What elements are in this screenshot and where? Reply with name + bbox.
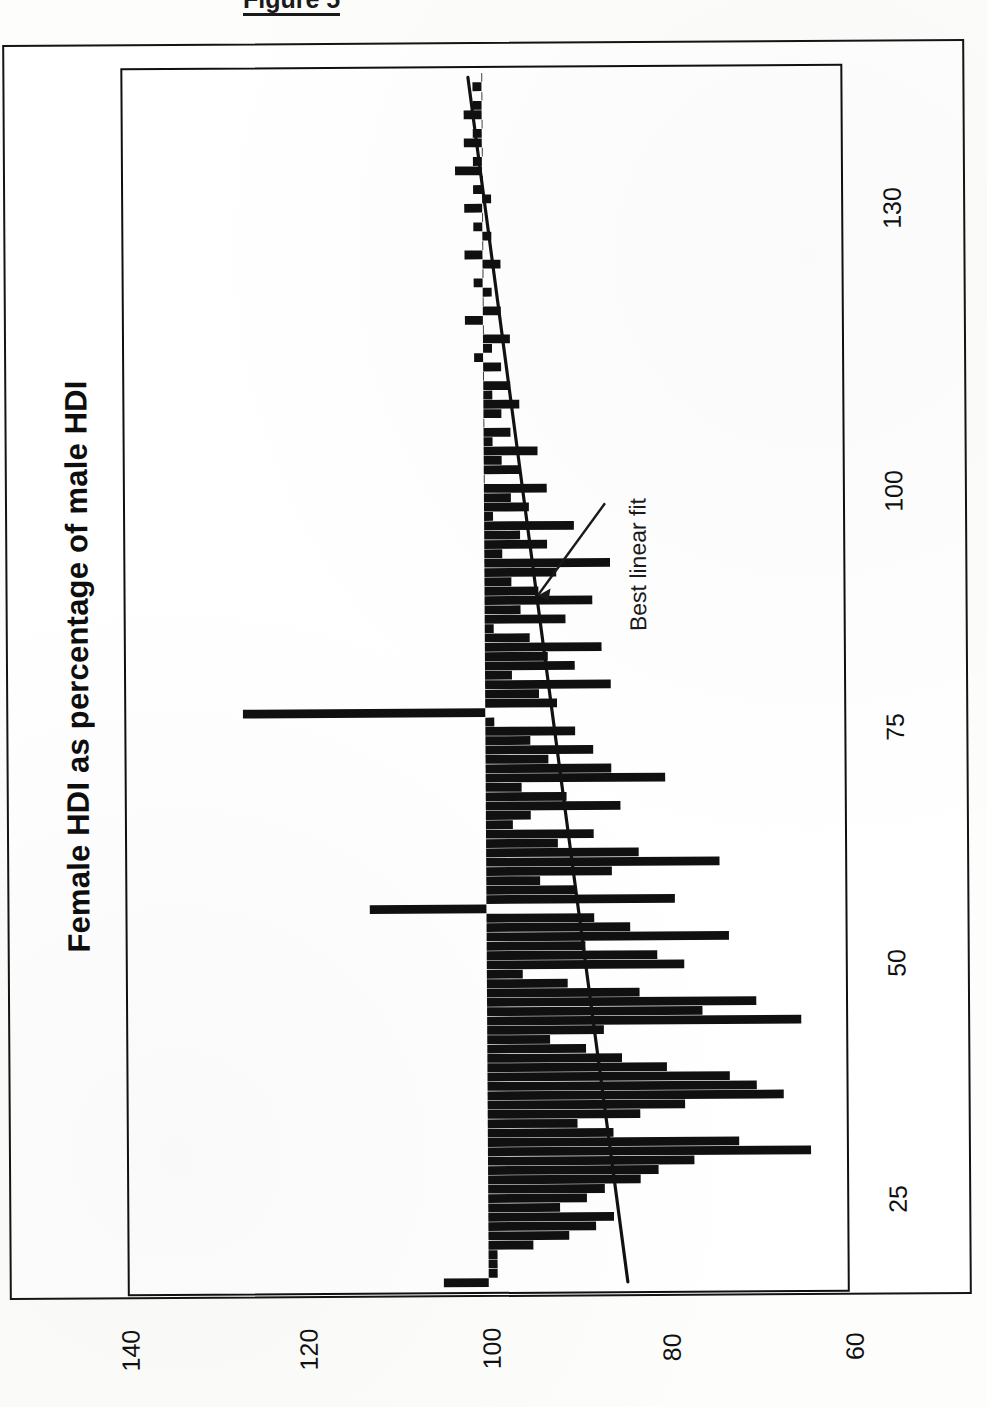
bar (488, 1145, 811, 1156)
bar (484, 456, 502, 465)
bar (485, 718, 494, 727)
bar (484, 446, 538, 455)
x-tick-label-130: 130 (877, 173, 906, 243)
bar (483, 288, 492, 297)
bar (489, 1269, 498, 1278)
best-fit-annotation-label: Best linear fit (624, 449, 652, 679)
bar (486, 773, 666, 783)
bar (484, 428, 511, 437)
bar (482, 120, 483, 129)
bar (487, 988, 640, 998)
bar (487, 1062, 667, 1072)
plot-svg (122, 66, 847, 1294)
bar (489, 1250, 498, 1259)
bar (483, 400, 519, 409)
plot-area (120, 64, 849, 1296)
bar (243, 708, 485, 718)
bar (485, 726, 575, 735)
bar (465, 316, 483, 325)
bar (486, 820, 513, 829)
bar (488, 1231, 569, 1240)
bar (473, 185, 482, 194)
bar (487, 1025, 604, 1034)
bar (486, 764, 612, 774)
bar (488, 1090, 784, 1101)
bar (487, 941, 586, 950)
bar (483, 344, 492, 353)
bar (485, 745, 593, 754)
bar (488, 1119, 578, 1128)
y-tick-label-140: 140 (116, 1316, 145, 1386)
y-tick-label-100: 100 (477, 1313, 506, 1383)
bar (486, 866, 612, 876)
bar (487, 1071, 729, 1081)
bar (488, 1109, 641, 1119)
bar (483, 391, 492, 400)
bar (488, 1100, 686, 1110)
bar (487, 1044, 586, 1053)
figure-page: Figure 5 Female HDI as percentage of mal… (0, 0, 987, 1407)
bar (488, 1184, 605, 1193)
bar (464, 251, 482, 260)
bar (370, 905, 487, 914)
bar (483, 297, 484, 306)
bar (483, 409, 501, 418)
y-tick-label-120: 120 (294, 1315, 323, 1385)
bar (486, 755, 549, 764)
bar (483, 381, 510, 390)
bar (485, 699, 557, 708)
bar (486, 856, 719, 866)
bar (444, 1278, 489, 1287)
bar (464, 204, 482, 213)
bar (488, 1165, 659, 1175)
bar (486, 839, 558, 848)
bar (487, 922, 631, 932)
bar (486, 801, 621, 811)
bar (455, 166, 482, 175)
bar (488, 1222, 596, 1231)
bar (488, 1080, 757, 1090)
bar (488, 1203, 560, 1212)
bar (481, 73, 482, 82)
chart-area: Female HDI as percentage of male HDI 130… (2, 39, 972, 1300)
bar (481, 92, 482, 101)
bar (482, 241, 483, 250)
bar (482, 213, 483, 222)
bar (486, 894, 675, 904)
bar (488, 1175, 641, 1185)
x-tick-label-100: 100 (879, 456, 908, 526)
bar (472, 82, 481, 91)
bar (488, 1194, 587, 1203)
bar (487, 996, 756, 1006)
bar (486, 885, 576, 894)
bar (486, 829, 594, 838)
bar (486, 876, 540, 885)
bar (464, 138, 482, 147)
bar (483, 419, 484, 428)
bar (487, 950, 658, 960)
bar (486, 848, 639, 858)
bar (487, 931, 729, 941)
bar (487, 1015, 801, 1026)
chart-title: Female HDI as percentage of male HDI (56, 66, 99, 1266)
bar (488, 1241, 533, 1250)
bar (483, 372, 484, 381)
x-tick-label-50: 50 (882, 928, 911, 998)
bar (483, 334, 510, 343)
bar (488, 1156, 694, 1166)
bar (483, 363, 501, 372)
bar (482, 148, 483, 157)
bar (488, 1212, 614, 1222)
bar (483, 269, 484, 278)
bar (473, 101, 482, 110)
bar (488, 1128, 614, 1138)
bar (484, 437, 493, 446)
bar (486, 783, 522, 792)
bar (485, 736, 530, 745)
figure-caption: Figure 5 (243, 0, 340, 16)
bar (487, 1006, 702, 1016)
bar (474, 279, 483, 288)
y-tick-label-60: 60 (840, 1311, 869, 1381)
bar (488, 1137, 739, 1147)
bar (486, 792, 567, 801)
